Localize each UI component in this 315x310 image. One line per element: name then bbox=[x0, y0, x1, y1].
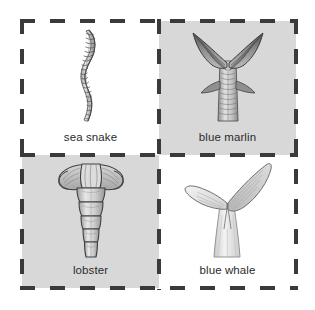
grid-divider-vertical bbox=[157, 19, 161, 290]
cell-label-blue-marlin: blue marlin bbox=[159, 131, 296, 143]
cell-label-sea-snake: sea snake bbox=[22, 131, 159, 143]
cell-label-lobster: lobster bbox=[22, 264, 159, 276]
dashed-grid: sea snake bbox=[22, 21, 296, 288]
cell-blue-marlin: blue marlin bbox=[159, 21, 296, 155]
grid-border-right bbox=[294, 19, 298, 290]
blue-marlin-tail-illustration bbox=[159, 25, 296, 125]
cell-label-blue-whale: blue whale bbox=[159, 264, 296, 276]
cell-lobster: lobster bbox=[22, 155, 159, 289]
sea-snake-tail-illustration bbox=[22, 25, 159, 125]
grid-border-left bbox=[20, 19, 24, 290]
cell-blue-whale: blue whale bbox=[159, 155, 296, 289]
blue-whale-fluke-illustration bbox=[159, 159, 296, 259]
lobster-tail-illustration bbox=[22, 159, 159, 259]
tail-comparison-figure: sea snake bbox=[0, 0, 315, 310]
cell-sea-snake: sea snake bbox=[22, 21, 159, 155]
